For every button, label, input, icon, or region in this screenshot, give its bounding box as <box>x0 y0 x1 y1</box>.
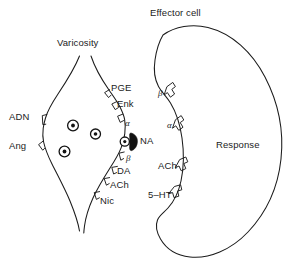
label-response: Response <box>216 140 260 150</box>
label-beta-postjunctional: β <box>158 89 162 98</box>
vesicle-core <box>71 124 75 128</box>
label-5ht: 5–HT <box>148 190 172 200</box>
varicosity-title: Varicosity <box>57 38 98 48</box>
label-na: NA <box>140 136 153 146</box>
label-beta-prejunctional: β <box>126 154 130 163</box>
effector-cell-title: Effector cell <box>150 8 201 18</box>
vesicle-core <box>94 132 98 136</box>
label-ach-prejunctional: ACh <box>110 180 129 190</box>
vesicle-group <box>59 120 100 157</box>
neuroeffector-junction-diagram: Varicosity Effector cell ADN Ang PGE Enk… <box>0 0 301 274</box>
label-ach-postjunctional: ACh <box>158 161 177 171</box>
label-pge: PGE <box>111 83 131 93</box>
noradrenaline-granule <box>130 133 138 151</box>
label-alpha-prejunctional: α <box>125 119 130 128</box>
label-enk: Enk <box>117 99 134 109</box>
varicosity-receptor-notch-alpha <box>118 114 124 122</box>
label-ang: Ang <box>9 141 26 151</box>
label-da: DA <box>117 166 130 176</box>
varicosity-receptor-notch-nic <box>94 192 99 200</box>
varicosity-receptor-notch-ach <box>104 178 109 186</box>
varicosity-receptor-notch-beta <box>119 152 124 160</box>
na-release-pore-core <box>123 140 126 143</box>
label-adn: ADN <box>9 112 29 122</box>
label-alpha-postjunctional: α <box>167 121 172 130</box>
label-nic: Nic <box>100 196 114 206</box>
varicosity-left-membrane <box>43 56 80 231</box>
vesicle-core <box>63 150 67 154</box>
